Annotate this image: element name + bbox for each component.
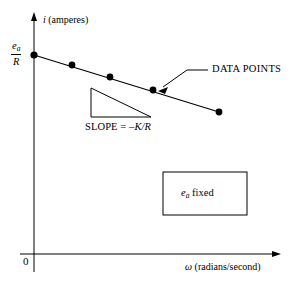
data-point	[107, 74, 114, 81]
fit-line	[34, 55, 219, 112]
y-intercept-denominator: R	[11, 55, 21, 67]
y-intercept-numerator: ea	[11, 40, 21, 53]
slope-prefix: SLOPE = –	[85, 121, 134, 132]
y-intercept-label: ea R	[11, 40, 21, 67]
x-axis-symbol: ω	[185, 261, 192, 272]
note-box-text: ea fixed	[181, 188, 214, 199]
note-text: fixed	[192, 187, 214, 198]
data-points-label: DATA POINTS	[212, 64, 281, 75]
data-point	[216, 109, 223, 116]
figure-canvas	[0, 0, 301, 288]
origin-label: 0	[23, 256, 29, 267]
data-point	[30, 51, 37, 58]
slope-numerator: K	[134, 121, 141, 132]
data-point	[150, 87, 157, 94]
slope-triangle	[91, 88, 151, 117]
data-point	[69, 62, 76, 69]
motor-current-vs-speed-figure: i (amperes) ea R 0 ω (radians/second) SL…	[0, 0, 301, 288]
y-axis-line	[31, 12, 37, 272]
x-axis-line	[20, 251, 281, 257]
slope-denominator: R	[145, 121, 152, 132]
slope-annotation: SLOPE = –K/R	[85, 122, 151, 133]
y-axis-title: i (amperes)	[43, 15, 88, 25]
y-axis-units: (amperes)	[48, 14, 88, 25]
x-axis-units: (radians/second)	[195, 261, 261, 272]
data-points-leader	[158, 70, 208, 94]
x-axis-title: ω (radians/second)	[185, 262, 261, 272]
